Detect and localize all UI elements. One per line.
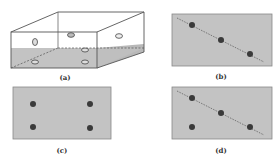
diagram-canvas (0, 0, 280, 162)
panel-a-box (11, 12, 144, 68)
marker-ellipse (82, 48, 89, 52)
panel-c (13, 87, 111, 139)
dot (189, 124, 195, 130)
caption-b: (b) (206, 72, 236, 81)
dot (247, 124, 253, 130)
marker-ellipse (32, 60, 39, 64)
panel-d (172, 87, 272, 139)
dot (189, 22, 195, 28)
marker-ellipse (116, 34, 123, 39)
dot (30, 124, 36, 130)
dot (247, 51, 253, 57)
caption-c: (c) (47, 146, 77, 155)
dot (218, 110, 224, 116)
marker-ellipse (33, 39, 38, 46)
panel-b (172, 14, 272, 66)
dot (30, 101, 36, 107)
marker-ellipse (68, 33, 75, 38)
dot (87, 101, 93, 107)
dot (189, 95, 195, 101)
caption-a: (a) (50, 73, 80, 82)
marker-ellipse (82, 60, 89, 64)
dot (218, 37, 224, 43)
dot (87, 125, 93, 131)
caption-d: (d) (206, 146, 236, 155)
